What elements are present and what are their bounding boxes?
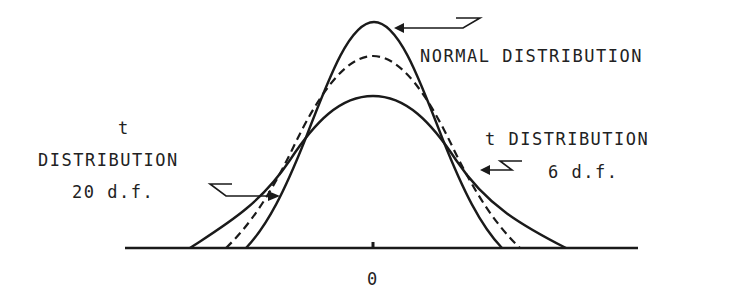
normal-label: NORMAL DISTRIBUTION [420, 46, 643, 66]
t20-curve [226, 56, 520, 248]
distribution-diagram: NORMAL DISTRIBUTION t DISTRIBUTION 20 d.… [0, 0, 754, 297]
t6-arrowhead [480, 165, 490, 175]
normal-pointer [400, 18, 480, 28]
zero-tick-label: 0 [367, 269, 379, 289]
t20-pointer [210, 184, 268, 196]
t6-label-line1: t DISTRIBUTION [485, 129, 649, 149]
t6-pointer [488, 161, 522, 170]
t6-label-line2: 6 d.f. [548, 162, 618, 182]
normal-arrowhead [394, 23, 404, 33]
t20-label-line2: DISTRIBUTION [38, 150, 179, 170]
t20-label-line3: 20 d.f. [72, 182, 154, 202]
t20-label-line1: t [118, 118, 130, 138]
